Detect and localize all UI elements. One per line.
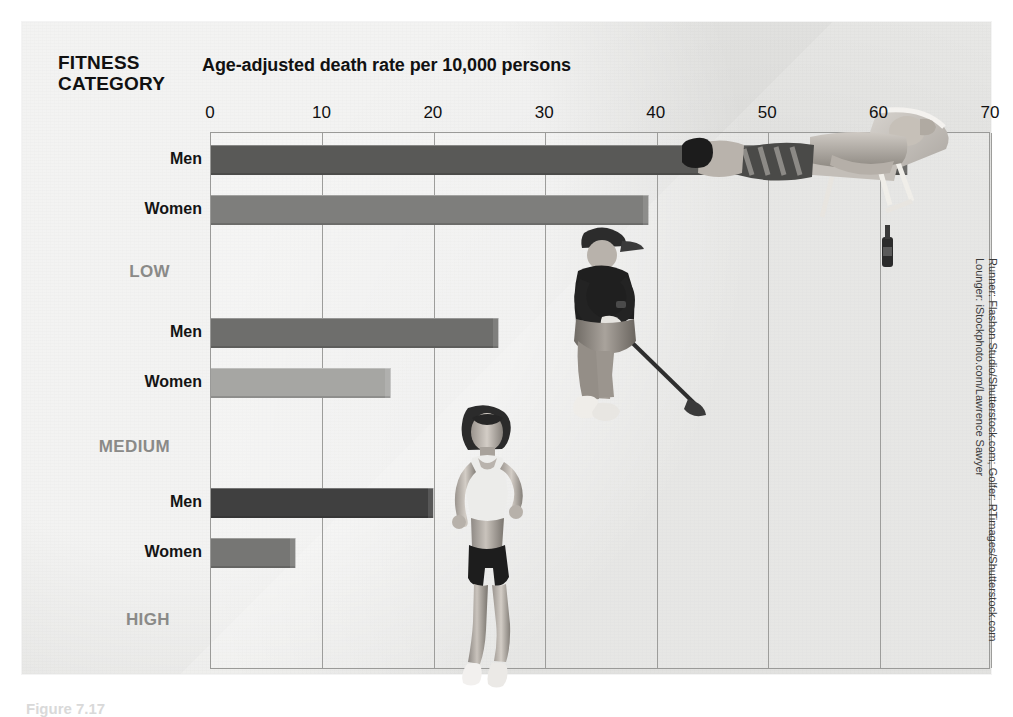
fitness-category-heading-line1: FITNESS <box>58 52 188 73</box>
series-label-high-women: Women <box>92 543 202 561</box>
figure-caption: Figure 7.17 <box>26 700 105 717</box>
series-label-high-men: Men <box>92 493 202 511</box>
x-tick-label-10: 10 <box>312 103 331 123</box>
photo-credit: Runner: Flashon Studio/Shutterstock.com;… <box>973 258 999 641</box>
x-tick-label-20: 20 <box>423 103 442 123</box>
x-tick-label-30: 30 <box>535 103 554 123</box>
x-tick-label-60: 60 <box>869 103 888 123</box>
lounger-photo <box>682 97 972 282</box>
photo-credit-line1: Runner: Flashon Studio/Shutterstock.com;… <box>986 258 999 641</box>
x-tick-label-70: 70 <box>981 103 1000 123</box>
series-label-low-men: Men <box>92 150 202 168</box>
figure-page: FITNESS CATEGORY Age-adjusted death rate… <box>22 22 991 674</box>
series-label-medium-men: Men <box>92 323 202 341</box>
x-tick-label-50: 50 <box>758 103 777 123</box>
bar-end-cap <box>290 538 296 568</box>
axis-title: Age-adjusted death rate per 10,000 perso… <box>202 55 571 76</box>
bar-high-women <box>211 538 295 568</box>
fitness-category-heading: FITNESS CATEGORY <box>58 52 188 94</box>
x-tick-label-0: 0 <box>205 103 214 123</box>
x-tick-label-40: 40 <box>646 103 665 123</box>
bar-medium-women <box>211 368 390 398</box>
bar-end-cap <box>493 318 499 348</box>
photo-credit-line2: Lounger: iStockphoto.com/Lawrence Sawyer <box>973 258 986 641</box>
bar-end-cap <box>385 368 391 398</box>
runner-photo <box>412 402 562 712</box>
category-label-low: LOW <box>40 262 170 282</box>
bar-medium-men <box>211 318 498 348</box>
bar-high-men <box>211 488 433 518</box>
series-label-low-women: Women <box>92 200 202 218</box>
category-label-high: HIGH <box>40 610 170 630</box>
category-label-medium: MEDIUM <box>40 437 170 457</box>
fitness-category-heading-line2: CATEGORY <box>58 73 188 94</box>
series-label-medium-women: Women <box>92 373 202 391</box>
